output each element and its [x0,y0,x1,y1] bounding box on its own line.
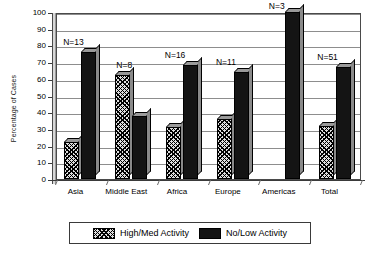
gridline [57,131,360,132]
y-tick-label: 70 [20,59,46,67]
gridline [57,81,360,82]
y-tick-label: 20 [20,143,46,151]
y-tick-mark [48,163,52,164]
y-tick-label: 60 [20,76,46,84]
n-label-africa: N=16 [150,51,201,60]
legend-entry-no-low: No/Low Activity [199,228,287,239]
bar-front-face [319,126,334,179]
bar-middle-east-no-low [132,116,147,179]
bar-middle-east-high-med [115,75,130,179]
y-tick-mark [48,30,52,31]
n-label-asia: N=13 [48,38,99,47]
y-axis-title: Percentage of Cases [10,49,17,169]
bar-front-face [81,52,96,179]
y-tick-label: 40 [20,109,46,117]
n-label-total: N=51 [302,53,353,62]
y-tick-mark [48,97,52,98]
bar-africa-no-low [183,65,198,179]
y-tick-mark [48,80,52,81]
x-label-africa: Africa [152,187,203,196]
gridline [57,14,360,15]
y-tick-mark [48,147,52,148]
x-label-asia: Asia [50,187,101,196]
legend-label-no-low: No/Low Activity [226,228,287,238]
legend-label-high-med: High/Med Activity [120,228,189,238]
bar-front-face [183,65,198,179]
bar-front-face [336,67,351,179]
x-label-europe: Europe [203,187,254,196]
chart-legend: High/Med Activity No/Low Activity [69,222,311,244]
n-label-americas: N=3 [251,2,302,11]
bar-front-face [285,12,300,179]
bar-chart: Percentage of Cases 01020304050607080901… [0,0,376,257]
bar-front-face [115,75,130,179]
y-tick-mark [48,13,52,14]
y-tick-mark [48,63,52,64]
x-tick-mark [55,180,58,185]
gridline [57,31,360,32]
y-tick-label: 50 [20,93,46,101]
x-label-total: Total [304,187,355,196]
solid-swatch-icon [199,228,221,239]
bar-africa-high-med [166,127,181,179]
x-label-middle-east: Middle East [101,187,152,196]
bar-europe-high-med [217,119,232,179]
bar-front-face [64,142,79,179]
bar-total-no-low [336,67,351,179]
bar-side-face [249,64,253,175]
bar-side-face [147,108,151,175]
gridline [57,47,360,48]
y-tick-label: 0 [20,176,46,184]
y-tick-mark [48,180,52,181]
gridline [57,164,360,165]
bar-side-face [198,57,202,175]
y-tick-mark [48,130,52,131]
bar-total-high-med [319,126,334,179]
bar-front-face [132,116,147,179]
legend-entry-high-med: High/Med Activity [93,228,189,239]
plot-area [56,13,361,180]
bar-side-face [351,59,355,175]
y-tick-label: 10 [20,159,46,167]
bar-front-face [217,119,232,179]
bar-europe-no-low [234,72,249,179]
gridline [57,98,360,99]
y-tick-label: 80 [20,42,46,50]
y-tick-label: 90 [20,26,46,34]
bar-asia-no-low [81,52,96,179]
gridline [57,148,360,149]
bar-front-face [166,127,181,179]
x-tick-mark [309,180,312,185]
hatched-swatch-icon [93,228,115,239]
x-tick-mark [360,180,363,185]
n-label-europe: N=11 [201,58,252,67]
gridline [57,114,360,115]
bar-side-face [300,4,304,175]
x-label-americas: Americas [253,187,304,196]
n-label-middle-east: N=8 [99,61,150,70]
bar-front-face [234,72,249,179]
y-tick-label: 100 [20,9,46,17]
bar-asia-high-med [64,142,79,179]
y-tick-mark [48,113,52,114]
y-tick-label: 30 [20,126,46,134]
bar-americas-no-low [285,12,300,179]
